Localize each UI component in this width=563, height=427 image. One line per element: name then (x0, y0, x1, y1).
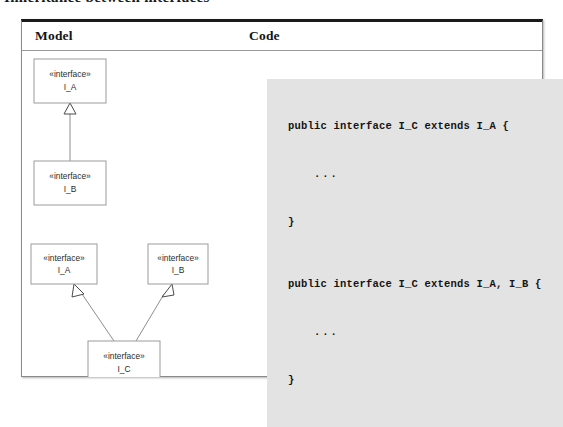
uml-diagram-multiple-inheritance: «interface» I_A «interface» I_B «interfa… (31, 244, 208, 377)
uml-box-stereotype: «interface» (49, 69, 91, 79)
uml-box-name: I_A (58, 265, 71, 275)
uml-box-name: I_B (172, 265, 185, 275)
uml-box-stereotype: «interface» (43, 253, 85, 263)
uml-box-name: I_C (117, 364, 130, 374)
model-column: «interface» I_A «interface» I_B (22, 51, 248, 377)
uml-box-rect (34, 59, 106, 103)
figure-caption: Inheritance between interfaces (4, 0, 210, 6)
generalization-line-ic-to-ib (136, 294, 164, 341)
uml-diagram-single-inheritance: «interface» I_A «interface» I_B (34, 59, 106, 205)
code-line: ... (288, 324, 563, 340)
code-line: } (288, 214, 563, 230)
uml-class-box-i-c-bottom: «interface» I_C (88, 341, 160, 377)
generalization-arrowhead-ib-2 (162, 284, 174, 297)
uml-box-rect (148, 244, 208, 284)
uml-class-box-i-a-bottom: «interface» I_A (31, 244, 97, 284)
uml-box-rect (34, 161, 106, 205)
column-header-code: Code (249, 28, 280, 44)
uml-box-name: I_B (64, 184, 77, 194)
uml-box-name: I_A (64, 82, 77, 92)
generalization-line-ic-to-ia (82, 294, 114, 341)
uml-box-stereotype: «interface» (49, 171, 91, 181)
uml-box-stereotype: «interface» (157, 253, 199, 263)
table-header-row: Model Code (22, 22, 542, 51)
comparison-table: Model Code «interface» I_A (21, 19, 543, 377)
code-line: ... (288, 166, 563, 182)
uml-diagram-canvas: «interface» I_A «interface» I_B (22, 51, 248, 377)
code-line: public interface I_C extends I_A, I_B { (288, 276, 563, 292)
uml-box-stereotype: «interface» (103, 351, 145, 361)
uml-class-box-i-b-top: «interface» I_B (34, 161, 106, 205)
table-body: «interface» I_A «interface» I_B (22, 51, 542, 377)
uml-box-rect (31, 244, 97, 284)
column-header-model: Model (35, 28, 73, 44)
uml-class-box-i-a-top: «interface» I_A (34, 59, 106, 103)
generalization-arrowhead-ia (64, 103, 76, 114)
code-block-multiple-inheritance: public interface I_C extends I_A, I_B { … (267, 237, 563, 427)
code-column: public interface I_C extends I_A { ... }… (248, 51, 544, 377)
uml-class-box-i-b-bottom: «interface» I_B (148, 244, 208, 284)
figure-caption-strip: Inheritance between interfaces (0, 0, 562, 11)
code-line: public interface I_C extends I_A { (288, 118, 563, 134)
code-line: } (288, 372, 563, 388)
